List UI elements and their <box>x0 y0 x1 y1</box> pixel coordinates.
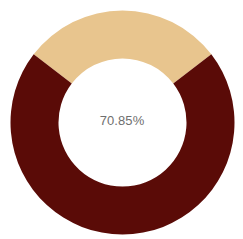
donut-center-value: 70.85% <box>72 113 172 129</box>
donut-segment-remaining <box>34 10 212 83</box>
donut-segment-filled <box>10 54 234 234</box>
donut-chart: 70.85% <box>0 0 243 239</box>
